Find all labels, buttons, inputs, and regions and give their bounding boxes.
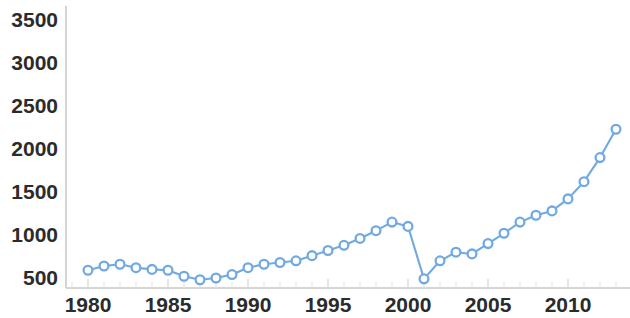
data-point-marker (548, 207, 557, 216)
data-point-marker (164, 266, 173, 275)
x-tick-label: 2005 (465, 293, 512, 316)
data-point-marker (212, 274, 221, 283)
data-point-marker (276, 258, 285, 267)
data-point-marker (500, 229, 509, 238)
y-tick-label: 2500 (11, 94, 58, 117)
data-point-marker (420, 274, 429, 283)
x-tick-label: 2010 (545, 293, 592, 316)
data-point-marker (100, 262, 109, 271)
x-axis-tick-marks (72, 279, 616, 288)
data-point-marker (116, 260, 125, 269)
data-point-marker (372, 226, 381, 235)
data-point-marker (148, 265, 157, 274)
data-point-marker (292, 256, 301, 265)
line-chart: 500100015002000250030003500 198019851990… (0, 0, 630, 318)
data-point-marker (404, 222, 413, 231)
data-point-marker (484, 239, 493, 248)
series-line-path (88, 129, 616, 280)
data-point-marker (84, 266, 93, 275)
y-tick-label: 1500 (11, 180, 58, 203)
x-tick-label: 1995 (305, 293, 352, 316)
data-point-marker (532, 211, 541, 220)
y-tick-label: 3500 (11, 8, 58, 31)
data-point-marker (180, 272, 189, 281)
data-point-marker (196, 275, 205, 284)
data-point-marker (468, 250, 477, 259)
data-point-marker (244, 263, 253, 272)
data-point-marker (324, 246, 333, 255)
data-point-marker (132, 263, 141, 272)
x-tick-label: 2000 (385, 293, 432, 316)
data-point-marker (436, 256, 445, 265)
data-point-marker (308, 251, 317, 260)
chart-canvas: 500100015002000250030003500 198019851990… (0, 0, 630, 318)
data-point-marker (580, 177, 589, 186)
y-tick-label: 2000 (11, 137, 58, 160)
data-point-marker (452, 248, 461, 257)
data-point-marker (388, 218, 397, 227)
data-point-marker (260, 260, 269, 269)
data-point-marker (516, 218, 525, 227)
data-point-marker (228, 270, 237, 279)
x-tick-label: 1985 (145, 293, 192, 316)
data-point-marker (612, 125, 621, 134)
data-point-marker (340, 241, 349, 250)
data-point-marker (564, 194, 573, 203)
y-axis-tick-labels: 500100015002000250030003500 (11, 8, 58, 289)
y-tick-label: 500 (23, 266, 58, 289)
data-point-marker (596, 153, 605, 162)
x-tick-label: 1980 (65, 293, 112, 316)
data-series-line (88, 129, 616, 280)
data-point-markers (84, 125, 621, 284)
data-point-marker (356, 234, 365, 243)
y-tick-label: 1000 (11, 223, 58, 246)
x-tick-label: 1990 (225, 293, 272, 316)
x-axis-tick-labels: 1980198519901995200020052010 (65, 293, 592, 316)
y-tick-label: 3000 (11, 51, 58, 74)
